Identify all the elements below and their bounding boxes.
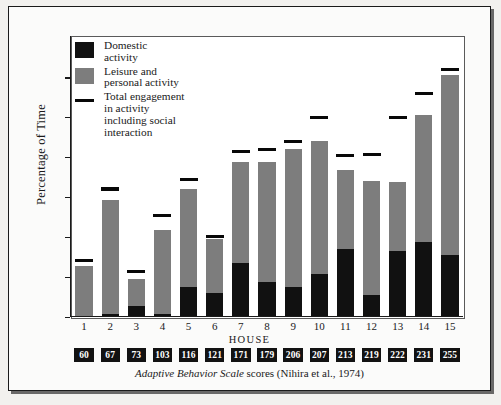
total-engagement-marker <box>441 68 459 71</box>
total-engagement-marker <box>153 214 171 217</box>
abs-score-chip: 73 <box>127 348 146 362</box>
bar-segment-domestic <box>154 314 171 317</box>
figure-frame: Percentage of Time 123456789101112131415… <box>8 6 491 391</box>
x-tick-label: 10 <box>306 320 332 332</box>
chart-legend: DomesticactivityLeisure andpersonal acti… <box>75 40 225 140</box>
bar-segment-domestic <box>206 293 223 317</box>
legend-item-label: Domesticactivity <box>104 40 225 64</box>
score-caption-italic: Adaptive Behavior Scale <box>135 367 244 379</box>
total-engagement-marker <box>363 153 381 156</box>
black-line-swatch <box>75 99 94 102</box>
x-tick-label: 11 <box>332 320 358 332</box>
bar-group[interactable] <box>363 181 380 316</box>
total-engagement-marker <box>75 259 93 262</box>
score-caption-rest: scores (Nihira et al., 1974) <box>244 367 364 379</box>
legend-label-line: interaction <box>104 127 225 139</box>
total-engagement-marker <box>389 116 407 119</box>
bar-segment-domestic <box>285 287 302 316</box>
abs-score-chip: 171 <box>231 348 250 362</box>
x-tick-label: 8 <box>254 320 280 332</box>
legend-item: Total engagementin activityincluding soc… <box>75 91 225 138</box>
total-engagement-marker <box>415 92 433 95</box>
legend-item: Domesticactivity <box>75 40 225 64</box>
abs-score-chip: 60 <box>74 348 93 362</box>
bar-group[interactable] <box>337 170 354 316</box>
y-tick-mark <box>65 117 70 118</box>
bar-group[interactable] <box>441 75 458 317</box>
bar-group[interactable] <box>232 162 249 316</box>
y-axis-line <box>70 36 71 317</box>
abs-score-chip: 116 <box>179 348 198 362</box>
bar-group[interactable] <box>75 266 92 316</box>
bar-segment-domestic <box>102 314 119 317</box>
bar-group[interactable] <box>258 162 275 316</box>
x-tick-label: 3 <box>123 320 149 332</box>
total-engagement-marker <box>258 148 276 151</box>
bar-group[interactable] <box>102 200 119 317</box>
total-engagement-marker <box>206 235 224 238</box>
total-engagement-marker <box>310 116 328 119</box>
total-engagement-marker <box>101 187 119 190</box>
x-tick-label: 2 <box>97 320 123 332</box>
abs-score-chip: 231 <box>414 348 433 362</box>
x-axis-title: HOUSE <box>9 334 490 345</box>
legend-item: Leisure andpersonal activity <box>75 66 225 90</box>
bar-segment-domestic <box>389 251 406 316</box>
bar-group[interactable] <box>415 115 432 317</box>
bar-group[interactable] <box>285 149 302 316</box>
abs-score-chip: 67 <box>101 348 120 362</box>
abs-score-chip: 213 <box>336 348 355 362</box>
bar-segment-domestic <box>363 295 380 316</box>
x-tick-label: 1 <box>71 320 97 332</box>
legend-item-label: Total engagementin activityincluding soc… <box>104 91 225 138</box>
figure-canvas: Percentage of Time 123456789101112131415… <box>0 0 501 405</box>
abs-score-chip: 103 <box>153 348 172 362</box>
x-tick-label: 6 <box>202 320 228 332</box>
x-tick-label: 12 <box>358 320 384 332</box>
x-tick-label: 13 <box>385 320 411 332</box>
bar-group[interactable] <box>206 239 223 316</box>
y-tick-mark <box>65 277 70 278</box>
bar-segment-domestic <box>311 274 328 316</box>
bar-group[interactable] <box>180 189 197 316</box>
y-tick-mark <box>65 237 70 238</box>
bar-segment-leisure <box>154 230 171 316</box>
legend-label-line: activity <box>104 52 225 64</box>
legend-label-line: personal activity <box>104 77 225 89</box>
x-tick-label: 14 <box>411 320 437 332</box>
y-tick-mark <box>65 197 70 198</box>
bar-segment-domestic <box>337 249 354 317</box>
score-caption: Adaptive Behavior Scale scores (Nihira e… <box>9 367 490 379</box>
grey-square-swatch <box>75 68 94 84</box>
y-tick-mark <box>65 157 70 158</box>
x-tick-label: 7 <box>228 320 254 332</box>
total-engagement-marker <box>180 178 198 181</box>
x-tick-label: 15 <box>437 320 463 332</box>
x-tick-label: 5 <box>176 320 202 332</box>
total-engagement-marker <box>232 150 250 153</box>
legend-label-line: including social <box>104 115 225 127</box>
bar-segment-leisure <box>102 200 119 317</box>
abs-score-chip: 255 <box>440 348 459 362</box>
y-tick-mark <box>65 77 70 78</box>
abs-score-chip: 219 <box>362 348 381 362</box>
bar-segment-domestic <box>415 242 432 316</box>
y-axis-title: Percentage of Time <box>34 85 49 225</box>
bar-segment-domestic <box>180 287 197 316</box>
bar-group[interactable] <box>311 141 328 316</box>
abs-score-chip: 121 <box>205 348 224 362</box>
bar-group[interactable] <box>154 230 171 316</box>
x-tick-label: 9 <box>280 320 306 332</box>
total-engagement-marker <box>284 140 302 143</box>
bar-group[interactable] <box>128 279 145 316</box>
bar-segment-domestic <box>232 263 249 316</box>
abs-score-chip: 206 <box>283 348 302 362</box>
abs-score-chip: 222 <box>388 348 407 362</box>
bar-group[interactable] <box>389 182 406 316</box>
total-engagement-marker <box>127 270 145 273</box>
bar-segment-leisure <box>75 266 92 316</box>
x-tick-label: 4 <box>149 320 175 332</box>
legend-item-label: Leisure andpersonal activity <box>104 66 225 90</box>
abs-score-chip: 179 <box>257 348 276 362</box>
bar-segment-domestic <box>258 282 275 317</box>
